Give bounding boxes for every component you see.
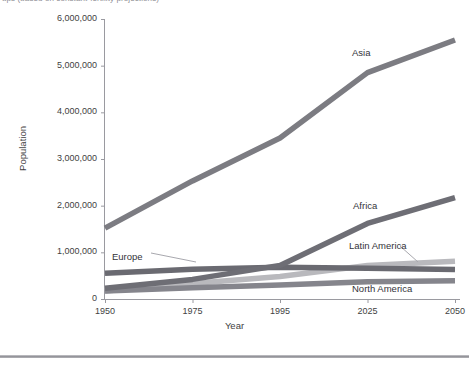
- y-tick-label: 6,000,000: [31, 13, 97, 23]
- y-tick-label: 1,000,000: [31, 246, 97, 256]
- x-tick-label: 1975: [163, 306, 223, 316]
- series-label-africa: Africa: [353, 200, 377, 211]
- series-line-asia: [105, 40, 455, 228]
- y-tick-label: 2,000,000: [31, 200, 97, 210]
- series-lines-group: [105, 40, 455, 291]
- x-tick-label: 2050: [425, 306, 469, 316]
- y-tick-label: 3,000,000: [31, 153, 97, 163]
- series-label-latin-america: Latin America: [349, 240, 407, 251]
- y-tick-label: 5,000,000: [31, 60, 97, 70]
- y-tick-label: 4,000,000: [31, 106, 97, 116]
- x-tick-label: 2025: [338, 306, 398, 316]
- series-label-europe: Europe: [112, 251, 143, 262]
- x-axis-title: Year: [0, 320, 469, 331]
- bottom-divider-rule: [0, 355, 469, 358]
- y-axis-title: Population: [17, 109, 28, 189]
- population-line-chart: Population Year 01,000,0002,000,0003,000…: [0, 0, 469, 340]
- x-tick-label: 1950: [75, 306, 135, 316]
- europe-leader-line: [151, 253, 196, 262]
- series-label-asia: Asia: [352, 47, 370, 58]
- x-tick-label: 1995: [250, 306, 310, 316]
- y-tick-label: 0: [31, 293, 97, 303]
- series-label-north-america: North America: [352, 283, 412, 294]
